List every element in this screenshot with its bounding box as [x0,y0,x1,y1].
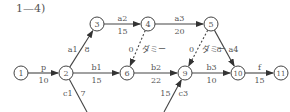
edge-2-6: b115 [73,63,119,85]
edge-name-label: a3 [175,14,185,23]
node-3: 3 [90,17,104,31]
edge-10-11: f15 [245,63,273,85]
edge-4-5: a320 [155,14,203,36]
edge-name-label: a2 [118,14,128,23]
edge-6-9: b222 [134,63,177,85]
edge-duration-label: 15 [160,89,170,98]
edge-2-3: a18 [68,31,93,67]
node-label: 9 [182,69,187,78]
node-11: 11 [274,66,288,80]
node-5: 5 [204,17,218,31]
node-label: 5 [208,20,213,29]
edge-duration-label: 0 [128,45,133,54]
node-6: 6 [120,66,134,80]
edge-c1: c17 [63,79,87,112]
edge-name-label: b2 [151,63,161,72]
edge-3-4: a215 [104,14,140,36]
edge-duration-label: 20 [174,27,184,36]
edge-5-9: 0ダミー [189,30,226,66]
edge-name-label: c3 [179,89,189,98]
node-label: 6 [124,69,129,78]
edge-name-label: f [258,63,262,72]
edge-duration-label: 15 [91,76,101,85]
node-label: 10 [234,70,243,78]
edge-duration-label: 7 [81,89,86,98]
edge-duration-label: 10 [38,76,48,85]
edge-name-label: ダミー [142,44,166,54]
edge-4-6: 0ダミー [128,30,165,65]
node-label: 2 [63,69,68,78]
edge-name-label: a1 [68,45,78,54]
edge-name-label: p [41,63,46,72]
node-4: 4 [141,17,155,31]
edge-duration-label: 15 [117,27,127,36]
edge-name-label: b1 [91,63,101,72]
node-label: 1 [18,69,23,78]
node-1: 1 [14,66,28,80]
node-label: 4 [145,20,150,29]
edge-duration-label: 15 [254,76,264,85]
edge-name-label: a4 [229,45,239,54]
node-label: 11 [277,70,286,78]
network-diagram: p10a18a215a3208a4b115b222b310f150ダミー0ダミー… [0,0,290,112]
edge-duration-label: 10 [206,76,216,85]
edge-9-10: b310 [192,63,230,85]
node-9: 9 [178,66,192,80]
edge-duration-label: 0 [189,45,194,54]
edge-name-label: ダミー [202,44,226,54]
edge-duration-label: 8 [85,45,90,54]
edge-1-2: p10 [28,63,58,85]
node-2: 2 [59,66,73,80]
edge-name-label: c1 [63,89,73,98]
edge-duration-label: 22 [151,76,161,85]
node-label: 3 [94,20,99,29]
edge-c3: 15c3 [160,80,188,112]
edge-name-label: b3 [206,63,216,72]
node-10: 10 [231,66,245,80]
